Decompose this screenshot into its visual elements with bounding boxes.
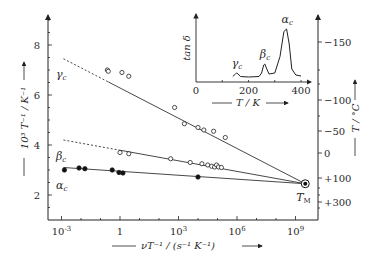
y2-tick-label: +100 xyxy=(324,173,351,184)
data-point xyxy=(219,165,223,169)
series-γ: γc xyxy=(56,59,305,184)
y-tick-label: 2 xyxy=(34,190,40,201)
y2-tick-label: −100 xyxy=(324,95,351,106)
data-point xyxy=(110,168,114,172)
tan-delta-curve xyxy=(233,29,301,77)
data-point xyxy=(121,171,125,175)
x-tick-label: 103 xyxy=(170,225,187,237)
y-axis-label: 10³ T⁻¹ / K⁻¹ xyxy=(19,62,30,176)
data-point xyxy=(223,135,227,139)
data-point xyxy=(200,162,204,166)
data-point xyxy=(169,157,173,161)
data-point xyxy=(182,122,186,126)
inset-peak-label: γc xyxy=(232,57,243,71)
y2-tick-label: +300 xyxy=(324,197,351,208)
data-point xyxy=(127,74,131,78)
svg-text:νT⁻¹ / (s⁻¹ K⁻¹): νT⁻¹ / (s⁻¹ K⁻¹) xyxy=(141,240,215,251)
y2-tick-label: −50 xyxy=(324,126,345,137)
x-tick-label: 106 xyxy=(228,225,246,237)
data-point xyxy=(77,166,81,170)
data-point xyxy=(127,152,131,156)
inset-plot: 0200400T / Ktan δγcβcαc xyxy=(181,13,311,108)
svg-text:10³ T⁻¹ / K⁻¹: 10³ T⁻¹ / K⁻¹ xyxy=(19,87,30,149)
data-point xyxy=(118,150,122,154)
data-point xyxy=(196,125,200,129)
data-point xyxy=(212,129,216,133)
y2-tick-label: 0 xyxy=(324,148,330,159)
inset-peak-label: βc xyxy=(259,48,270,62)
series-label: αc xyxy=(56,179,67,193)
chart-canvas: 246810-31103106109νT⁻¹ / (s⁻¹ K⁻¹)10³ T⁻… xyxy=(0,0,376,265)
y-tick-label: 6 xyxy=(34,90,40,101)
y-tick-label: 4 xyxy=(34,140,40,151)
y2-tick-label: −150 xyxy=(324,37,351,48)
inset-x-tick-label: 200 xyxy=(239,85,258,96)
main-plot-series: γcβcαcTM xyxy=(55,59,311,205)
x-tick-label: 10-3 xyxy=(52,225,72,237)
data-point xyxy=(196,175,200,179)
inset-y-label: tan δ xyxy=(181,35,192,61)
inset-x-tick-label: 400 xyxy=(291,85,310,96)
inset-peak-label: αc xyxy=(282,13,293,27)
y2-axis-label: T / °C xyxy=(350,80,361,156)
data-point xyxy=(83,167,87,171)
series-α: αc xyxy=(56,166,305,193)
x-axis-label: νT⁻¹ / (s⁻¹ K⁻¹) xyxy=(112,240,262,251)
data-point xyxy=(120,70,124,74)
x-tick-label: 1 xyxy=(117,226,123,237)
tm-label: TM xyxy=(296,191,311,205)
svg-text:T / K: T / K xyxy=(236,97,260,108)
series-label: βc xyxy=(55,150,66,164)
inset-x-label: T / K xyxy=(212,97,288,108)
data-point xyxy=(62,168,66,172)
data-point xyxy=(188,160,192,164)
inset-x-tick-label: 0 xyxy=(193,85,199,96)
y-tick-label: 8 xyxy=(34,40,40,51)
data-point xyxy=(106,69,110,73)
data-point xyxy=(202,128,206,132)
data-point xyxy=(173,105,177,109)
svg-text:T / °C: T / °C xyxy=(350,103,361,132)
series-β: βc xyxy=(55,140,305,184)
series-label: γc xyxy=(56,68,67,82)
x-tick-label: 109 xyxy=(287,225,304,237)
